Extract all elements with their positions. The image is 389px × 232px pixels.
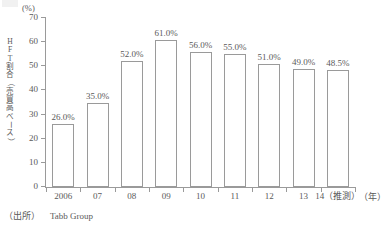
bar-value-label: 48.5% (326, 58, 349, 69)
x-axis-category-label: 2006 (54, 191, 72, 202)
x-axis-tick (46, 187, 47, 192)
x-axis-tick (80, 187, 81, 192)
x-axis-category-label: 11 (230, 191, 239, 202)
bar: 61.0% (155, 40, 177, 187)
y-axis-tick-label: 20 (29, 133, 38, 144)
y-axis-tick: 30 (41, 114, 46, 115)
bar: 48.5% (327, 70, 349, 187)
bar-value-label: 55.0% (223, 42, 246, 53)
y-axis-tick-label: 0 (34, 181, 39, 192)
bar-value-label: 26.0% (52, 112, 75, 123)
plot-area: 70605040302010026.0%200635.0%0752.0%0861… (45, 18, 355, 188)
y-axis-tick-label: 10 (29, 157, 38, 168)
y-axis-tick: 20 (41, 138, 46, 139)
x-axis-category-label: 09 (162, 191, 171, 202)
x-axis-tick (149, 187, 150, 192)
x-axis-category-label: 14（推測） (315, 191, 360, 202)
bar: 51.0% (258, 64, 280, 187)
bar: 49.0% (293, 69, 315, 187)
bar-value-label: 35.0% (86, 91, 109, 102)
bar: 55.0% (224, 54, 246, 187)
y-axis-title-char: （ (6, 77, 14, 91)
bar: 56.0% (190, 52, 212, 187)
scan-artifact (2, 0, 18, 7)
source-label: （出所） (4, 211, 40, 221)
source-text: Tabb Group (50, 211, 93, 221)
source-note: （出所）Tabb Group (4, 210, 93, 222)
x-axis-category-label: 07 (93, 191, 102, 202)
x-axis-tick (218, 187, 219, 192)
x-axis-category-label: 13 (299, 191, 308, 202)
x-axis-unit: （年） (359, 192, 386, 203)
y-axis-tick: 50 (41, 65, 46, 66)
y-axis-tick-label: 50 (29, 60, 38, 71)
bar-value-label: 49.0% (292, 57, 315, 68)
y-axis-tick: 60 (41, 41, 46, 42)
chart-figure: (%) HFT割合（売買高ベース） 70605040302010026.0%20… (0, 0, 389, 232)
y-axis-tick: 10 (41, 162, 46, 163)
bar-value-label: 51.0% (258, 52, 281, 63)
y-axis-title: HFT割合（売買高ベース） (3, 38, 17, 146)
y-axis-tick: 70 (41, 17, 46, 18)
x-axis-tick (286, 187, 287, 192)
bar-value-label: 61.0% (155, 28, 178, 39)
bar: 52.0% (121, 61, 143, 187)
x-axis-tick (115, 187, 116, 192)
y-axis-tick-label: 40 (29, 84, 38, 95)
x-axis-category-label: 10 (196, 191, 205, 202)
x-axis-category-label: 08 (127, 191, 136, 202)
bar-value-label: 52.0% (120, 49, 143, 60)
x-axis-tick (183, 187, 184, 192)
y-axis-tick-label: 30 (29, 109, 38, 120)
bar-value-label: 56.0% (189, 40, 212, 51)
y-axis-title-char: ー (6, 118, 14, 132)
x-axis-tick (252, 187, 253, 192)
y-axis-title-char: ） (6, 135, 14, 149)
y-axis-tick-label: 60 (29, 36, 38, 47)
y-axis-tick-label: 70 (29, 12, 38, 23)
y-axis-tick: 40 (41, 89, 46, 90)
x-axis-category-label: 12 (265, 191, 274, 202)
bar: 26.0% (52, 124, 74, 187)
bar: 35.0% (87, 103, 109, 188)
